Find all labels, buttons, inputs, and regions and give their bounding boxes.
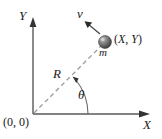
radius-label: R bbox=[53, 67, 61, 80]
x-axis-label: X bbox=[143, 118, 151, 131]
coordinates-label: (X, Y) bbox=[114, 33, 142, 45]
mass-label: m bbox=[99, 47, 107, 58]
angle-label: θ bbox=[78, 88, 84, 101]
velocity-label: v bbox=[77, 7, 83, 20]
origin-label: (0, 0) bbox=[3, 116, 29, 128]
velocity-vector bbox=[85, 21, 101, 34]
physics-diagram-figure: Y X (0, 0) v R θ m (X, Y) bbox=[0, 0, 162, 139]
paren-close: ) bbox=[138, 32, 142, 46]
radius-dashed-line bbox=[34, 46, 101, 113]
y-axis-label: Y bbox=[19, 9, 26, 22]
x-axis bbox=[33, 110, 150, 117]
y-axis bbox=[30, 17, 37, 114]
